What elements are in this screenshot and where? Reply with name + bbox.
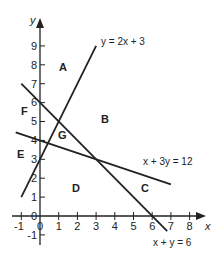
svg-text:1: 1 [56,220,62,232]
x-axis-label: x [204,220,211,232]
svg-text:0: 0 [37,220,43,232]
svg-text:6: 6 [149,220,155,232]
axes [12,24,200,245]
region-label-e: E [17,148,24,160]
svg-text:2: 2 [74,220,80,232]
svg-text:2: 2 [31,172,37,184]
svg-text:0: 0 [31,210,37,222]
svg-text:7: 7 [168,220,174,232]
coordinate-plane: -1 0 1 2 3 4 5 6 7 8 -1 0 1 2 3 4 5 6 7 … [0,0,218,265]
svg-text:3: 3 [93,220,99,232]
region-label-f: F [21,105,28,117]
y-axis-label: y [29,14,37,26]
svg-text:-1: -1 [27,229,37,241]
y-axis-arrow-icon [36,18,44,28]
region-label-d: D [72,182,80,194]
region-label-g: G [58,129,67,141]
y-tick-labels: -1 0 1 2 3 4 5 6 7 8 9 [27,40,37,241]
x-axis-arrow-icon [196,212,206,220]
svg-text:5: 5 [31,115,37,127]
region-label-b: B [101,113,109,125]
svg-text:-1: -1 [14,220,24,232]
region-label-c: C [141,182,149,194]
svg-text:8: 8 [187,220,193,232]
equation-label-1: y = 2x + 3 [101,36,145,47]
equation-label-3: x + y = 6 [153,237,192,248]
svg-text:8: 8 [31,59,37,71]
equation-label-2: x + 3y = 12 [143,156,193,167]
svg-text:5: 5 [130,220,136,232]
svg-text:9: 9 [31,40,37,52]
svg-text:4: 4 [112,220,118,232]
svg-text:3: 3 [31,153,37,165]
svg-text:1: 1 [31,191,37,203]
svg-text:7: 7 [31,78,37,90]
region-label-a: A [59,61,67,73]
